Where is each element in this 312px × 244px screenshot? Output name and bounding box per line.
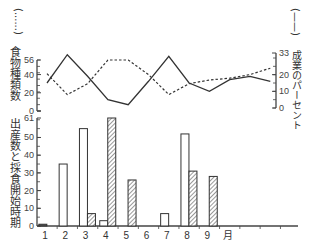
right-y-tick-label: 0 [279, 103, 284, 113]
month-label: 8 [184, 230, 190, 241]
month-label: 9 [205, 230, 211, 241]
bottom-y-tick-label: 61 [24, 113, 34, 123]
bottom-chart-bars [39, 118, 217, 226]
right-y-tick-label: 33 [279, 48, 289, 58]
food-types-dashed-line [47, 60, 270, 95]
feeding-start-hatched-bar [209, 176, 217, 226]
month-label: 4 [103, 230, 109, 241]
left-y-tick-label: 40 [24, 70, 34, 80]
left-y-tick-label: 56 [24, 55, 34, 65]
feeding-start-hatched-bar [189, 171, 197, 226]
left-y-tick-label: 20 [24, 88, 34, 98]
month-unit-label: 月 [223, 230, 233, 241]
chart-canvas: 02040560102033 0102030405061123456789月 [0, 0, 312, 244]
month-label: 5 [123, 230, 129, 241]
bottom-y-tick-label: 20 [24, 186, 34, 196]
right-y-tick-label: 20 [279, 70, 289, 80]
births-bar [161, 214, 169, 226]
month-label: 2 [63, 230, 69, 241]
month-label: 1 [42, 230, 48, 241]
month-label: 3 [83, 230, 89, 241]
month-label: 7 [164, 230, 170, 241]
births-bar [39, 224, 47, 226]
bottom-y-tick-label: 30 [24, 168, 34, 178]
bottom-y-tick-label: 10 [24, 203, 34, 213]
success-percent-solid-line [47, 55, 270, 105]
feeding-start-hatched-bar [87, 214, 95, 226]
month-label: 6 [144, 230, 150, 241]
feeding-start-hatched-bar [108, 118, 116, 226]
bottom-y-tick-label: 40 [24, 150, 34, 160]
births-bar [181, 134, 189, 226]
right-y-tick-label: 10 [279, 86, 289, 96]
births-bar [79, 129, 87, 226]
feeding-start-hatched-bar [128, 180, 136, 226]
births-bar [100, 221, 108, 226]
births-bar [59, 164, 67, 226]
top-chart-lines [47, 55, 270, 105]
bottom-y-tick-label: 0 [29, 221, 34, 231]
bottom-y-tick-label: 50 [24, 132, 34, 142]
